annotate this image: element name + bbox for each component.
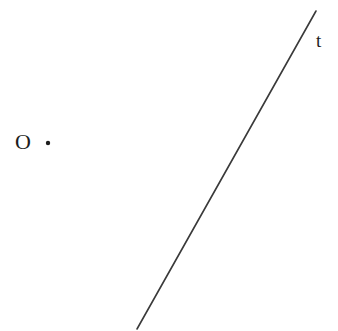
line-t-label: t: [316, 31, 321, 50]
line-t: [137, 11, 316, 329]
point-o-label: O: [15, 131, 31, 153]
figure-drawing-area: [0, 0, 338, 331]
geometry-figure-canvas: O t: [0, 0, 338, 331]
point-o-marker: [46, 141, 50, 145]
